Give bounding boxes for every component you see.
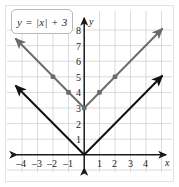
absolute-value-graph-figure: y = |x| + 3 –4 –3 –2 –1 1 2 3 4 1 2 3 4 … bbox=[0, 0, 179, 187]
x-tick-label--3: –3 bbox=[32, 159, 42, 169]
x-tick-label--4: –4 bbox=[16, 159, 26, 169]
x-tick-label-1: 1 bbox=[97, 159, 102, 169]
y-tick-label-2: 2 bbox=[76, 120, 81, 130]
y-tick-label-5: 5 bbox=[76, 73, 81, 83]
y-tick-label-3: 3 bbox=[76, 104, 81, 114]
y-tick-label-4: 4 bbox=[76, 88, 81, 98]
x-axis-label: x bbox=[165, 158, 169, 168]
y-tick-label-7: 7 bbox=[76, 42, 81, 52]
x-tick-label-3: 3 bbox=[128, 159, 133, 169]
x-tick-label--2: –2 bbox=[47, 159, 57, 169]
axis-lines bbox=[17, 18, 166, 168]
equation-callout: y = |x| + 3 bbox=[11, 9, 73, 34]
x-tick-label-4: 4 bbox=[143, 159, 148, 169]
y-axis-label: y bbox=[89, 17, 93, 27]
y-tick-label-6: 6 bbox=[76, 57, 81, 67]
equation-label: y = |x| + 3 bbox=[17, 16, 67, 28]
x-tick-label-2: 2 bbox=[112, 159, 117, 169]
y-tick-label-1: 1 bbox=[76, 135, 81, 145]
y-tick-label-8: 8 bbox=[76, 26, 81, 36]
x-tick-label--1: –1 bbox=[63, 159, 73, 169]
